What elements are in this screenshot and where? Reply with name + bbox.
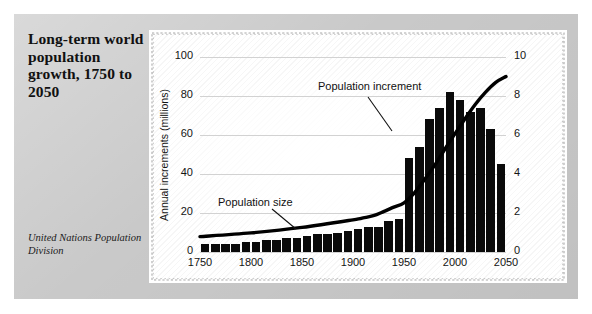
annotation-leader-lines	[200, 57, 506, 252]
y-axis-right-tick-label: 2	[506, 205, 520, 217]
plot-area: 020406080100 0246810 1750180018501900195…	[200, 57, 506, 252]
y-axis-left-tick-label: 0	[187, 244, 200, 256]
x-axis-tick-label: 2000	[443, 256, 467, 268]
page-title: Long-term world population growth, 1750 …	[28, 30, 146, 101]
x-axis-tick-label: 1750	[188, 256, 212, 268]
x-axis-tick-label: 2050	[494, 256, 518, 268]
x-axis-tick-label: 1800	[239, 256, 263, 268]
chart-card: 020406080100 0246810 1750180018501900195…	[152, 33, 564, 280]
y-axis-right-tick-label: 4	[506, 166, 520, 178]
y-axis-right-tick-label: 6	[506, 127, 520, 139]
screenshot-root: Long-term world population growth, 1750 …	[0, 0, 592, 314]
y-axis-left-tick-label: 40	[181, 166, 200, 178]
gridline	[200, 252, 506, 253]
caption-block: Long-term world population growth, 1750 …	[28, 30, 146, 101]
y-axis-left-tick-label: 100	[175, 49, 200, 61]
y-axis-right-tick-label: 8	[506, 88, 520, 100]
y-axis-left-title: Annual increments (millions)	[158, 89, 170, 221]
source-attribution: United Nations Population Division	[28, 232, 152, 258]
y-axis-left-tick-label: 80	[181, 88, 200, 100]
y-axis-right-tick-label: 0	[506, 244, 520, 256]
y-axis-right-tick-label: 10	[506, 49, 526, 61]
y-axis-left-tick-label: 60	[181, 127, 200, 139]
y-axis-left-tick-label: 20	[181, 205, 200, 217]
x-axis-tick-label: 1850	[290, 256, 314, 268]
x-axis-tick-label: 1900	[341, 256, 365, 268]
x-axis-tick-label: 1950	[392, 256, 416, 268]
